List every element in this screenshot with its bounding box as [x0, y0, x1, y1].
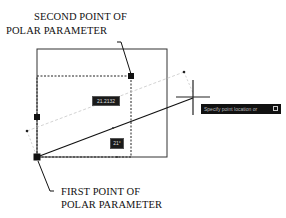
tracking-line-3: [27, 131, 37, 157]
tooltip-text: Specify point location or: [204, 106, 257, 112]
angle-tick: [112, 127, 114, 129]
angle-dimension-input[interactable]: 21°: [110, 138, 124, 149]
second-point-leader: [117, 42, 131, 74]
angle-tick: [116, 156, 118, 158]
first-point-grip[interactable]: [34, 154, 41, 161]
distance-dimension-input[interactable]: 21.2132: [92, 96, 120, 106]
first-point-label-line2: POLAR PARAMETER: [61, 199, 162, 211]
second-point-label-line1: SECOND POINT OF: [34, 11, 127, 23]
first-point-label-line1: FIRST POINT OF: [61, 186, 140, 198]
first-point-leader: [38, 161, 54, 191]
second-point-label-line2: POLAR PARAMETER: [6, 25, 107, 37]
command-tooltip: Specify point location or: [201, 104, 281, 114]
tracking-line-2: [184, 72, 193, 93]
midpoint-grip[interactable]: [34, 114, 40, 120]
tracking-point: [183, 71, 186, 74]
down-arrow-icon[interactable]: [273, 106, 278, 111]
tracking-point: [26, 130, 29, 133]
